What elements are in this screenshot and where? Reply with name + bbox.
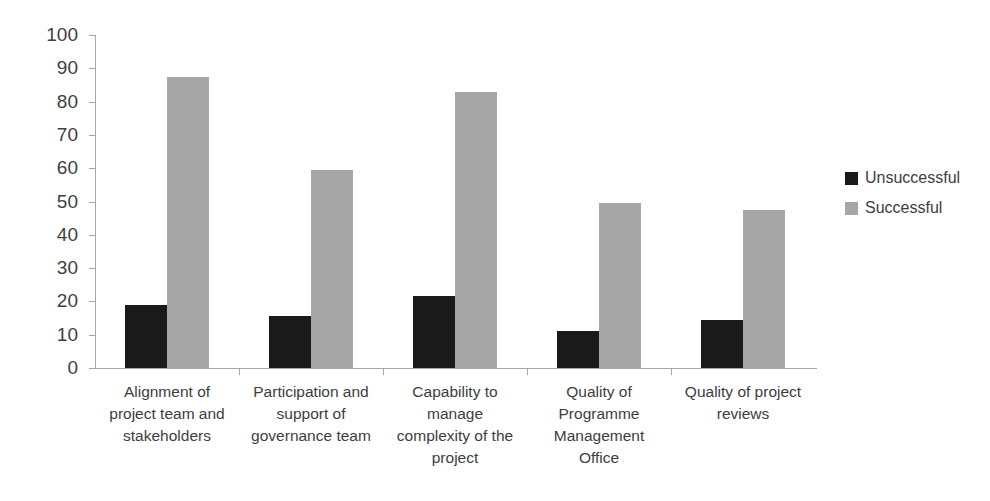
y-tick-label: 10: [57, 325, 78, 344]
x-axis-category-label: Capability to manage complexity of the p…: [375, 381, 535, 469]
x-axis-category-label: Participation and support of governance …: [231, 381, 391, 447]
bar-unsuccessful-2: [413, 296, 455, 368]
x-tick-mark: [671, 369, 672, 375]
legend-swatch-icon: [845, 202, 858, 215]
y-tick-label: 20: [57, 291, 78, 310]
x-axis-category-label: Alignment of project team and stakeholde…: [87, 381, 247, 447]
x-axis-line: [95, 368, 817, 369]
y-tick-label: 0: [67, 358, 78, 377]
bar-unsuccessful-0: [125, 305, 167, 368]
x-axis-category-label: Quality of Programme Management Office: [519, 381, 679, 469]
bar-successful-2: [455, 92, 497, 368]
bar-successful-3: [599, 203, 641, 368]
y-tick-label: 70: [57, 125, 78, 144]
chart-legend: UnsuccessfulSuccessful: [845, 163, 960, 223]
x-tick-mark: [527, 369, 528, 375]
bar-chart: 0102030405060708090100 Alignment of proj…: [0, 0, 990, 501]
bar-unsuccessful-3: [557, 331, 599, 368]
y-tick-label: 30: [57, 258, 78, 277]
legend-label: Unsuccessful: [865, 170, 960, 186]
y-tick-mark: [89, 368, 95, 369]
y-tick-label: 60: [57, 158, 78, 177]
y-tick-label: 40: [57, 225, 78, 244]
legend-item-unsuccessful: Unsuccessful: [845, 163, 960, 193]
bar-unsuccessful-1: [269, 316, 311, 368]
legend-label: Successful: [865, 200, 942, 216]
legend-swatch-icon: [845, 172, 858, 185]
x-tick-mark: [383, 369, 384, 375]
bar-successful-4: [743, 210, 785, 368]
plot-area: [95, 35, 815, 368]
bar-successful-1: [311, 170, 353, 368]
y-tick-label: 50: [57, 192, 78, 211]
bar-successful-0: [167, 77, 209, 368]
x-axis-category-label: Quality of project reviews: [663, 381, 823, 425]
x-tick-mark: [239, 369, 240, 375]
y-tick-label: 100: [46, 25, 78, 44]
legend-item-successful: Successful: [845, 193, 960, 223]
bar-unsuccessful-4: [701, 320, 743, 368]
y-tick-label: 90: [57, 58, 78, 77]
y-tick-label: 80: [57, 92, 78, 111]
